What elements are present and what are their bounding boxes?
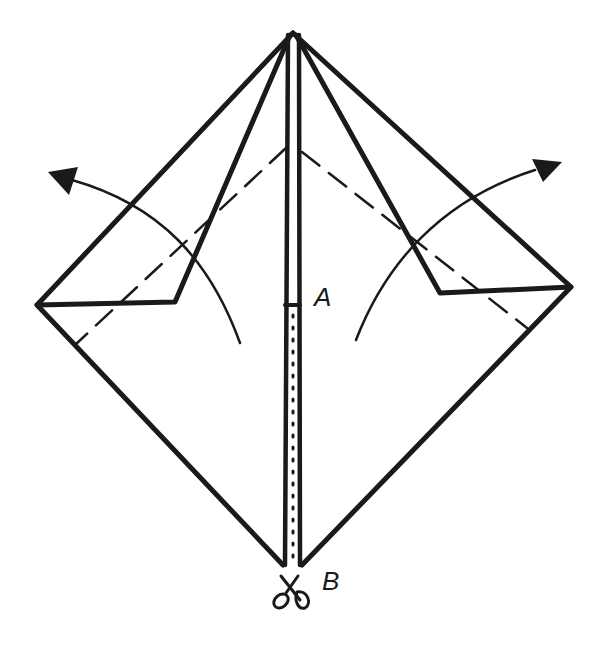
fold-guide-right <box>302 152 527 328</box>
fold-guide-left <box>75 148 286 345</box>
label-point-b: B <box>322 566 339 596</box>
right-outline <box>293 33 571 565</box>
scissors-icon <box>271 576 308 611</box>
origami-diagram: A B <box>0 0 599 650</box>
label-point-a: A <box>312 282 331 312</box>
